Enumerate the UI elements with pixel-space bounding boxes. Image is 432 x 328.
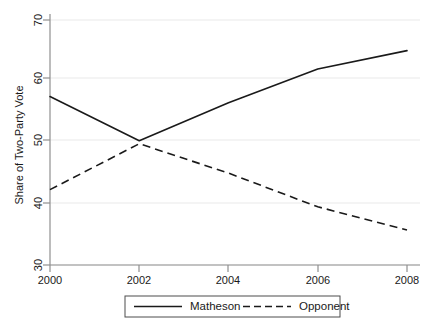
x-tick-label-2004: 2004 — [216, 274, 240, 286]
x-tick-label-2002: 2002 — [127, 274, 151, 286]
x-tick-label-2000: 2000 — [38, 274, 62, 286]
chart-legend: Matheson Opponent — [125, 296, 350, 317]
y-axis-title: Share of Two-Party Vote — [13, 85, 25, 204]
line-chart: 70 60 50 40 30 Share of Two-Party Vote 2… — [0, 0, 432, 328]
x-tick-label-2006: 2006 — [306, 274, 330, 286]
y-tick-label-50: 50 — [32, 134, 44, 146]
chart-container: 70 60 50 40 30 Share of Two-Party Vote 2… — [0, 0, 432, 328]
x-tick-label-2008: 2008 — [395, 274, 419, 286]
y-tick-label-70: 70 — [32, 14, 44, 26]
y-tick-label-40: 40 — [32, 197, 44, 209]
y-tick-label-60: 60 — [32, 72, 44, 84]
y-tick-label-30: 30 — [32, 259, 44, 271]
legend-label-matheson: Matheson — [190, 300, 241, 312]
legend-label-opponent: Opponent — [299, 300, 350, 312]
